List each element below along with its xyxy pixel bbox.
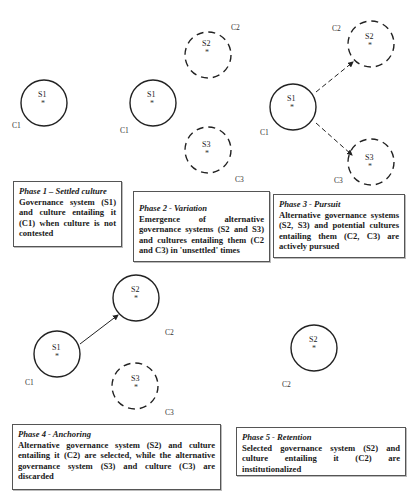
- phase2-c2-label: C2: [231, 23, 240, 32]
- phase5-description-box: Phase 5 - Retention Selected governance …: [236, 427, 406, 476]
- phase3-body: Alternative governance systems (S2, S3) …: [279, 210, 399, 252]
- phase2-s1-marker: *: [150, 99, 154, 108]
- phase2-c1-label: C1: [120, 126, 129, 135]
- phase1-s1-marker: *: [41, 99, 45, 108]
- phase2-s3-marker: *: [205, 149, 209, 158]
- phase1-body: Governance system (S1) and culture entai…: [19, 197, 116, 239]
- phase3-arrow-s1-s2: [316, 62, 353, 92]
- phase4-c2-label: C2: [165, 328, 174, 337]
- phase3-s2-label: S2: [365, 33, 373, 41]
- phase3-s3-marker: *: [368, 162, 372, 171]
- phase2-body: Emergence of alternative governance syst…: [139, 214, 264, 256]
- phase2-s2-label: S2: [202, 40, 210, 48]
- phase5-title: Phase 5 - Retention: [242, 432, 400, 443]
- phase4-s2-marker: *: [134, 294, 138, 303]
- phase4-c3-label: C3: [165, 408, 174, 417]
- phase2-s3-label: S3: [202, 141, 210, 149]
- phase1-s1-label: S1: [38, 91, 46, 99]
- phase2-description-box: Phase 2 - Variation Emergence of alterna…: [133, 191, 270, 262]
- phase5-body: Selected governance system (S2) and cult…: [242, 443, 400, 475]
- phase3-arrow-s1-s3: [316, 123, 352, 155]
- phase5-c2-label: C2: [282, 380, 291, 389]
- phase4-description-box: Phase 4 - Anchoring Alternative governan…: [12, 424, 221, 490]
- phase4-s3-marker: *: [134, 383, 138, 392]
- phase3-description-box: Phase 3 - Pursuit Alternative governance…: [273, 194, 405, 258]
- phase4-s1-marker: *: [55, 352, 59, 361]
- phase1-title: Phase 1 – Settled culture: [19, 186, 116, 197]
- phase4-c1-label: C1: [25, 378, 34, 387]
- phase4-s1-label: S1: [52, 344, 60, 352]
- phase2-c3-label: C3: [235, 175, 244, 184]
- phase1-description-box: Phase 1 – Settled culture Governance sys…: [13, 181, 122, 247]
- phase3-s3-label: S3: [365, 154, 373, 162]
- phase2-s2-marker: *: [205, 48, 209, 57]
- phase3-c1-label: C1: [260, 128, 269, 137]
- phase4-s2-label: S2: [131, 286, 139, 294]
- phase1-c1-label: C1: [12, 121, 21, 130]
- phase3-s2-marker: *: [368, 41, 372, 50]
- phase5-s2-label: S2: [309, 336, 317, 344]
- phase4-s3-label: S3: [131, 375, 139, 383]
- phase2-s1-label: S1: [147, 91, 155, 99]
- phase4-body: Alternative governance system (S2) and c…: [18, 440, 215, 482]
- phase2-title: Phase 2 - Variation: [139, 203, 264, 214]
- phase3-c2-label: C2: [332, 24, 341, 33]
- phase3-title: Phase 3 - Pursuit: [279, 199, 399, 210]
- phase3-s1-marker: *: [290, 103, 294, 112]
- phase3-s1-label: S1: [287, 95, 295, 103]
- phase5-s2-marker: *: [312, 344, 316, 353]
- phase4-title: Phase 4 - Anchoring: [18, 429, 215, 440]
- phase4-arrow-s1-s2: [80, 315, 118, 344]
- phase3-c3-label: C3: [334, 176, 343, 185]
